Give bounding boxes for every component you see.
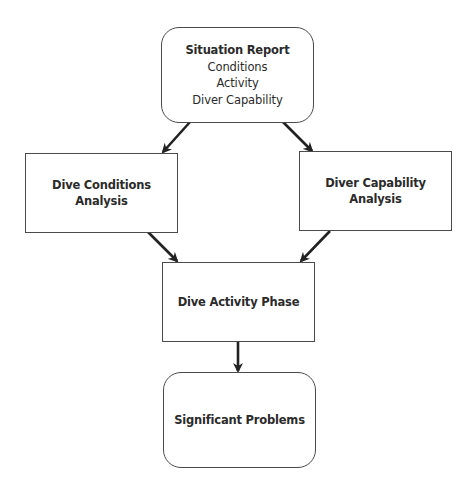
diver-capability-title-line2: Analysis <box>349 191 401 208</box>
dive-conditions-title-line2: Analysis <box>75 193 127 210</box>
situation-report-line-diver-capability: Diver Capability <box>192 92 282 109</box>
situation-report-line-conditions: Conditions <box>208 59 268 76</box>
situation-report-line-activity: Activity <box>216 75 258 92</box>
node-significant-problems: Significant Problems <box>163 372 316 468</box>
node-situation-report: Situation Report Conditions Activity Div… <box>161 27 314 123</box>
node-dive-conditions-analysis: Dive Conditions Analysis <box>25 153 178 233</box>
dive-conditions-title-line1: Dive Conditions <box>52 177 151 194</box>
dive-activity-phase-title: Dive Activity Phase <box>178 294 300 311</box>
diver-capability-title-line1: Diver Capability <box>325 175 426 192</box>
arrow-capability-to-activity <box>301 231 330 261</box>
significant-problems-title: Significant Problems <box>174 412 305 429</box>
flowchart-canvas: Situation Report Conditions Activity Div… <box>0 0 473 491</box>
arrow-conditions-to-activity <box>148 232 177 261</box>
node-diver-capability-analysis: Diver Capability Analysis <box>299 151 452 231</box>
arrow-situation-to-conditions <box>163 122 190 152</box>
node-dive-activity-phase: Dive Activity Phase <box>162 262 315 342</box>
arrow-situation-to-capability <box>283 122 312 151</box>
situation-report-title: Situation Report <box>186 42 290 59</box>
